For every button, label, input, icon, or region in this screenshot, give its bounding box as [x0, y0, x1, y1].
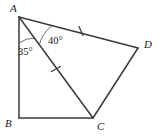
- geometry-figure: A B C D 35° 40°: [0, 0, 160, 136]
- geometry-canvas: A B C D 35° 40°: [0, 0, 160, 136]
- angle-label-35: 35°: [18, 46, 33, 57]
- vertex-label-C: C: [97, 120, 105, 132]
- angle-label-40: 40°: [48, 35, 63, 46]
- vertex-label-D: D: [143, 38, 152, 50]
- angle-arc-BAC: [19, 38, 34, 43]
- vertex-label-B: B: [5, 117, 12, 129]
- edge-DC: [93, 48, 138, 118]
- tick-mark-AD: [79, 27, 83, 36]
- vertex-label-A: A: [9, 2, 17, 14]
- edge-AD: [19, 17, 138, 48]
